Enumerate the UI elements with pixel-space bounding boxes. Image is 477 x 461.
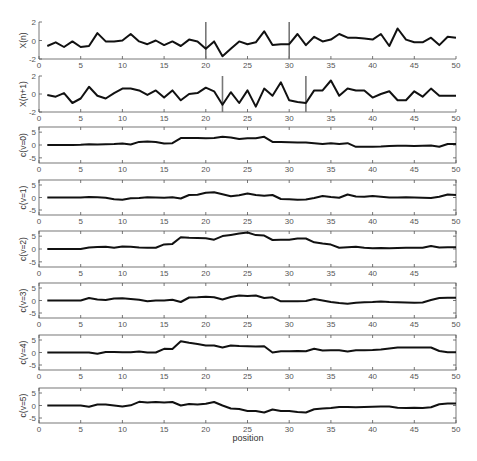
x-tick-label: 35 — [326, 61, 335, 70]
y-axis-label: X(n) — [18, 32, 28, 48]
x-tick-label: 40 — [368, 320, 377, 329]
x-tick-label: 0 — [37, 61, 42, 70]
x-tick-label: 30 — [285, 217, 294, 226]
x-tick-label: 15 — [160, 165, 169, 174]
y-tick-label: 0 — [32, 245, 37, 254]
x-tick-label: 50 — [452, 372, 461, 381]
x-tick-label: 25 — [243, 114, 252, 123]
x-tick-label: 35 — [326, 217, 335, 226]
x-tick-label: 5 — [78, 269, 83, 278]
x-tick-label: 5 — [78, 320, 83, 329]
y-tick-label: -5 — [29, 361, 37, 370]
x-tick-label: 30 — [285, 114, 294, 123]
y-tick-label: -5 — [29, 309, 37, 318]
x-tick-label: 0 — [37, 269, 42, 278]
x-tick-label: 50 — [452, 425, 461, 434]
x-tick-label: 5 — [78, 372, 83, 381]
panels-container: 05101520253035404550-202X(n)051015202530… — [18, 18, 461, 434]
x-tick-label: 10 — [118, 165, 127, 174]
x-tick-label: 40 — [368, 269, 377, 278]
y-axis-label: c(v=0) — [18, 133, 28, 157]
x-tick-label: 5 — [78, 114, 83, 123]
x-tick-label: 0 — [37, 165, 42, 174]
y-tick-label: 5 — [32, 389, 37, 398]
x-tick-label: 50 — [452, 61, 461, 70]
data-series-line — [47, 137, 456, 147]
y-tick-label: 0 — [32, 90, 37, 99]
x-tick-label: 20 — [201, 372, 210, 381]
y-tick-label: 0 — [32, 297, 37, 306]
x-tick-label: 35 — [326, 320, 335, 329]
y-tick-label: 0 — [32, 37, 37, 46]
x-tick-label: 30 — [285, 372, 294, 381]
y-tick-label: 0 — [32, 349, 37, 358]
x-tick-label: 50 — [452, 114, 461, 123]
x-tick-label: 35 — [326, 425, 335, 434]
x-tick-label: 20 — [201, 320, 210, 329]
x-tick-label: 10 — [118, 320, 127, 329]
x-tick-label: 35 — [326, 114, 335, 123]
panel-c-v4: 05101520253035404550-505c(v=4) — [18, 335, 461, 381]
y-tick-label: -5 — [29, 206, 37, 215]
x-tick-label: 10 — [118, 372, 127, 381]
data-series-line — [47, 341, 456, 354]
y-axis-label: c(v=2) — [18, 237, 28, 261]
panel-c-v1: 05101520253035404550-505c(v=1) — [18, 180, 461, 226]
x-tick-label: 0 — [37, 425, 42, 434]
data-series-line — [47, 81, 456, 107]
x-tick-label: 35 — [326, 372, 335, 381]
y-axis-label: c(v=4) — [18, 340, 28, 364]
x-tick-label: 10 — [118, 425, 127, 434]
x-tick-label: 10 — [118, 217, 127, 226]
x-tick-label: 15 — [160, 269, 169, 278]
x-tick-label: 45 — [410, 114, 419, 123]
x-tick-label: 30 — [285, 269, 294, 278]
x-tick-label: 40 — [368, 61, 377, 70]
x-tick-label: 35 — [326, 269, 335, 278]
data-series-line — [47, 402, 456, 413]
x-tick-label: 10 — [118, 269, 127, 278]
y-axis-label: c(v=3) — [18, 288, 28, 312]
y-tick-label: 0 — [32, 194, 37, 203]
x-tick-label: 15 — [160, 217, 169, 226]
x-tick-label: 20 — [201, 217, 210, 226]
x-tick-label: 0 — [37, 217, 42, 226]
x-tick-label: 15 — [160, 372, 169, 381]
x-tick-label: 25 — [243, 372, 252, 381]
x-tick-label: 25 — [243, 320, 252, 329]
x-tick-label: 25 — [243, 165, 252, 174]
panel-x-n: 05101520253035404550-202X(n) — [18, 18, 461, 70]
x-tick-label: 45 — [410, 61, 419, 70]
x-tick-label: 15 — [160, 320, 169, 329]
y-axis-label: c(v=1) — [18, 185, 28, 209]
x-tick-label: 5 — [78, 217, 83, 226]
x-tick-label: 15 — [160, 114, 169, 123]
x-tick-label: 40 — [368, 372, 377, 381]
x-tick-label: 40 — [368, 217, 377, 226]
x-tick-label: 40 — [368, 165, 377, 174]
x-tick-label: 20 — [201, 61, 210, 70]
x-tick-label: 45 — [410, 320, 419, 329]
y-tick-label: -5 — [29, 258, 37, 267]
x-tick-label: 40 — [368, 114, 377, 123]
x-tick-label: 0 — [37, 372, 42, 381]
x-tick-label: 50 — [452, 217, 461, 226]
y-tick-label: 5 — [32, 181, 37, 190]
x-tick-label: 20 — [201, 269, 210, 278]
x-tick-label: 50 — [452, 165, 461, 174]
x-tick-label: 5 — [78, 425, 83, 434]
x-tick-label: 20 — [201, 165, 210, 174]
x-tick-label: 25 — [243, 269, 252, 278]
panel-c-v5: 05101520253035404550-505c(v=5) — [18, 388, 461, 434]
y-axis-label: X(n+1) — [18, 81, 28, 107]
x-tick-label: 15 — [160, 425, 169, 434]
x-tick-label: 30 — [285, 320, 294, 329]
x-tick-label: 45 — [410, 372, 419, 381]
y-tick-label: 2 — [32, 72, 37, 81]
x-tick-label: 30 — [285, 61, 294, 70]
x-tick-label: 35 — [326, 165, 335, 174]
x-tick-label: 30 — [285, 425, 294, 434]
y-tick-label: 5 — [32, 284, 37, 293]
figure: 05101520253035404550-202X(n)051015202530… — [0, 0, 477, 461]
x-tick-label: 45 — [410, 269, 419, 278]
